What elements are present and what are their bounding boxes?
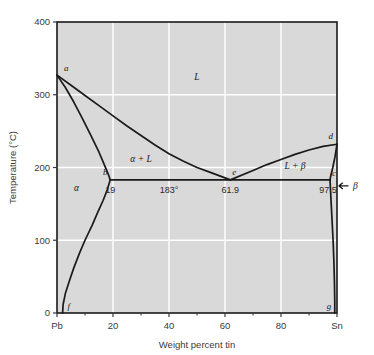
- x-tick-label: Sn: [331, 320, 343, 331]
- point-label-c: c: [332, 168, 336, 178]
- x-axis-title: Weight percent tin: [159, 339, 235, 350]
- point-label-e: e: [232, 167, 236, 177]
- value-label-eutectic-temp: 183°: [160, 185, 179, 195]
- value-label-alpha-max: 19: [105, 185, 115, 195]
- x-tick-label: 80: [276, 320, 287, 331]
- y-tick-label: 100: [34, 235, 50, 246]
- region-label-beta: β: [352, 181, 358, 191]
- x-tick-label: 20: [108, 320, 119, 331]
- x-tick-label: 60: [220, 320, 231, 331]
- value-label-beta-min: 97.5: [319, 185, 337, 195]
- point-label-b: b: [103, 167, 108, 177]
- value-label-eutectic-comp: 61.9: [222, 185, 240, 195]
- region-label-alpha-plus-liquid: α + L: [130, 154, 151, 164]
- y-tick-label: 0: [45, 307, 50, 318]
- y-tick-label: 200: [34, 162, 50, 173]
- point-label-d: d: [329, 131, 334, 141]
- phase-diagram-figure: Pb20406080Sn0100200300400 abcdefgLαα + L…: [0, 0, 374, 355]
- x-tick-label: 40: [164, 320, 175, 331]
- point-label-g: g: [327, 301, 332, 311]
- phase-diagram-svg: Pb20406080Sn0100200300400 abcdefgLαα + L…: [0, 0, 374, 355]
- x-tick-label: Pb: [51, 320, 63, 331]
- y-tick-label: 300: [34, 89, 50, 100]
- y-tick-label: 400: [34, 16, 50, 27]
- region-label-liquid: L: [193, 72, 199, 82]
- point-label-a: a: [64, 63, 69, 73]
- y-axis-title: Temperature (°C): [7, 131, 18, 204]
- region-label-liquid-plus-beta: L + β: [283, 161, 305, 171]
